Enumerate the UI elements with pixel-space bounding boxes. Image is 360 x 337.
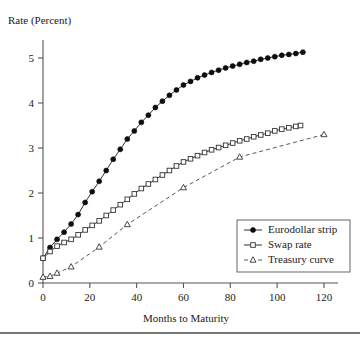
data-point-marker [48, 249, 53, 254]
data-point-marker [286, 52, 291, 57]
data-point-marker [97, 179, 102, 184]
data-point-marker [188, 157, 193, 162]
data-point-marker [287, 125, 292, 130]
data-point-marker [76, 212, 81, 217]
data-point-marker [76, 233, 81, 238]
data-point-marker [223, 65, 228, 70]
data-point-marker [111, 157, 116, 162]
data-point-marker [209, 70, 214, 75]
data-point-marker [104, 213, 109, 218]
x-tick-label: 60 [178, 291, 190, 303]
data-point-marker [202, 73, 207, 78]
data-point-marker [195, 75, 200, 80]
data-point-marker [69, 222, 74, 227]
data-point-marker [90, 223, 95, 228]
data-point-marker [83, 228, 88, 233]
data-point-marker [62, 230, 67, 235]
data-point-marker [160, 99, 165, 104]
data-point-marker [132, 128, 137, 133]
data-point-marker [69, 237, 74, 242]
data-point-marker [223, 143, 228, 148]
x-tick-label: 20 [84, 291, 96, 303]
y-tick-label: 4 [29, 97, 35, 109]
data-point-marker [298, 123, 303, 128]
data-point-marker [118, 202, 123, 207]
data-point-marker [55, 237, 60, 242]
data-point-marker [237, 139, 242, 144]
data-point-marker [41, 256, 46, 261]
x-tick-label: 100 [269, 291, 286, 303]
data-point-marker [216, 68, 221, 73]
data-point-marker [272, 54, 277, 59]
y-tick-label: 2 [29, 187, 35, 199]
data-point-marker [97, 219, 102, 224]
data-point-marker [55, 244, 60, 249]
y-axis-label: Rate (Percent) [8, 14, 72, 27]
data-point-marker [279, 53, 284, 58]
data-point-marker [181, 160, 186, 165]
data-point-marker [111, 208, 116, 213]
data-point-marker [216, 145, 221, 150]
data-point-marker [244, 60, 249, 65]
legend-item-label: Swap rate [268, 238, 312, 250]
y-tick-label: 1 [29, 232, 35, 244]
data-point-marker [258, 133, 263, 138]
data-point-marker [125, 197, 130, 202]
data-point-marker [139, 120, 144, 125]
x-tick-label: 80 [225, 291, 237, 303]
x-axis-ticks: 020406080100120 [40, 283, 332, 303]
data-point-marker [124, 221, 130, 226]
data-point-marker [258, 57, 263, 62]
data-point-marker [280, 127, 285, 132]
data-point-marker [293, 51, 298, 56]
data-point-marker [209, 148, 214, 153]
data-point-marker [62, 240, 67, 245]
data-point-marker [272, 129, 277, 134]
legend-item-label: Treasury curve [268, 253, 334, 265]
data-point-marker [132, 192, 137, 197]
y-axis-ticks: 012345 [29, 52, 44, 289]
data-point-marker [146, 113, 151, 118]
chart-figure: 012345 020406080100120 Rate (Percent) Mo… [0, 0, 360, 337]
x-axis-label: Months to Maturity [143, 312, 230, 324]
data-point-marker [146, 182, 151, 187]
data-point-marker [202, 150, 207, 155]
x-tick-label: 120 [316, 291, 333, 303]
data-point-marker [244, 137, 249, 142]
data-point-marker [251, 134, 256, 139]
data-point-marker [294, 124, 299, 129]
data-point-marker [174, 164, 179, 169]
data-point-marker [265, 131, 270, 136]
data-point-marker [96, 244, 102, 249]
data-point-marker [230, 141, 235, 146]
data-point-marker [237, 62, 242, 67]
data-point-marker [139, 186, 144, 191]
data-point-marker [181, 83, 186, 88]
data-point-marker [174, 87, 179, 92]
x-tick-label: 0 [40, 291, 46, 303]
data-point-marker [167, 93, 172, 98]
data-point-marker [125, 137, 130, 142]
data-point-marker [90, 189, 95, 194]
data-point-marker [153, 177, 158, 182]
data-point-marker [321, 131, 327, 136]
data-point-marker [188, 79, 193, 84]
open-square-marker [251, 243, 256, 248]
data-point-marker [167, 168, 172, 173]
data-point-marker [118, 147, 123, 152]
y-tick-label: 3 [29, 142, 35, 154]
data-point-marker [160, 173, 165, 178]
y-tick-label: 0 [29, 277, 35, 289]
data-point-marker [83, 200, 88, 205]
chart-legend: Eurodollar stripSwap rateTreasury curve [237, 220, 350, 272]
data-point-marker [104, 168, 109, 173]
data-point-marker [68, 264, 74, 269]
data-point-marker [195, 153, 200, 158]
data-point-marker [251, 59, 256, 64]
data-point-marker [265, 56, 270, 61]
line-chart: 012345 020406080100120 Rate (Percent) Mo… [0, 0, 360, 337]
data-point-marker [300, 50, 305, 55]
data-point-marker [153, 105, 158, 110]
data-point-marker [230, 64, 235, 69]
y-tick-label: 5 [29, 52, 35, 64]
